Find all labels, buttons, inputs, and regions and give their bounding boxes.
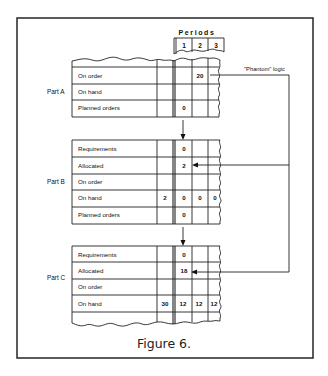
arrow-a-to-b [181, 120, 186, 140]
part-c-requirements-p1: 0 [182, 251, 186, 258]
part-a-row-on-order: On order [78, 72, 102, 79]
part-b-row-planned-orders: Planned orders [78, 211, 120, 218]
part-b-row-on-order: On order [78, 178, 102, 185]
part-c-on-hand-past: 30 [162, 300, 169, 307]
part-a-row-on-hand: On hand [78, 88, 102, 95]
part-b-row-on-hand: On hand [78, 194, 102, 201]
arrow-down-icon [181, 134, 186, 140]
part-a-row-planned-orders: Planned orders [78, 104, 120, 111]
arrow-down-icon [181, 240, 186, 246]
part-c-row-allocated: Allocated [78, 267, 104, 274]
part-b-on-hand-p3: 0 [213, 194, 217, 201]
figure-diagram: Periods 1 2 3 Part A On order On hand Pl… [0, 0, 328, 376]
part-b-requirements-p1: 0 [182, 145, 186, 152]
period-1-label: 1 [182, 42, 186, 49]
part-b-table: Part B Requirements Allocated On order O… [47, 140, 221, 224]
part-c-label: Part C [47, 274, 65, 281]
part-a-table: Part A On order On hand Planned orders 2… [47, 57, 220, 117]
periods-header: Periods [179, 29, 216, 36]
part-c-on-hand-p2: 12 [196, 300, 203, 307]
part-b-on-hand-past: 2 [163, 194, 167, 201]
part-b-on-hand-p2: 0 [198, 194, 202, 201]
phantom-logic-label: "Phantom" logic [244, 66, 285, 72]
part-c-table: Part C Requirements Allocated On order O… [47, 246, 221, 326]
part-c-on-hand-p3: 12 [211, 300, 218, 307]
part-b-label: Part B [47, 178, 65, 185]
figure-caption: Figure 6. [137, 336, 191, 351]
part-b-on-hand-p1: 0 [182, 194, 186, 201]
part-c-row-on-hand: On hand [78, 300, 102, 307]
arrow-b-to-c [181, 227, 186, 246]
part-c-on-hand-p1: 12 [180, 300, 187, 307]
part-c-row-requirements: Requirements [78, 251, 117, 258]
part-b-row-requirements: Requirements [78, 145, 117, 152]
part-b-planned-orders-p1: 0 [182, 211, 186, 218]
part-c-allocated-p1: 18 [181, 267, 188, 274]
periods-header-box: 1 2 3 [174, 38, 224, 54]
arrow-left-icon [192, 163, 198, 168]
phantom-logic-connector: "Phantom" logic [191, 66, 289, 275]
part-a-label: Part A [47, 88, 65, 95]
part-b-row-allocated: Allocated [78, 162, 104, 169]
period-2-label: 2 [198, 42, 202, 49]
part-c-row-on-order: On order [78, 283, 102, 290]
part-a-on-order-p2: 20 [197, 72, 204, 79]
period-3-label: 3 [214, 42, 218, 49]
part-b-allocated-p1: 2 [182, 162, 186, 169]
part-a-planned-orders-p1: 0 [182, 104, 186, 111]
